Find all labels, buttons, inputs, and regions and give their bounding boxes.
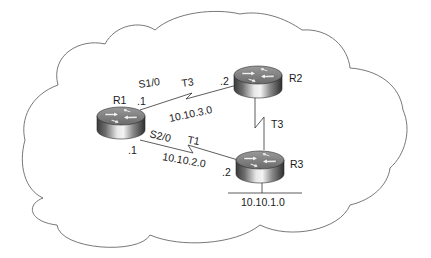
r1-r3-speed-label: T1 <box>187 133 201 147</box>
r2-host-label: .2 <box>220 75 229 87</box>
router-icon <box>234 66 282 98</box>
router-icon <box>97 107 145 139</box>
router-r2-label: R2 <box>289 72 303 84</box>
r1-r2-speed-label: T3 <box>181 75 195 89</box>
router-r1[interactable] <box>97 107 145 139</box>
r1-s1-host-label: .1 <box>137 95 146 107</box>
router-r2[interactable] <box>234 66 282 98</box>
r1-s1-interface-label: S1/0 <box>138 75 161 90</box>
r1-r3-network-label: 10.10.2.0 <box>162 150 207 169</box>
r1-s2-host-label: .1 <box>128 144 137 156</box>
router-r3[interactable] <box>236 151 284 183</box>
router-r3-label: R3 <box>290 158 304 170</box>
router-r1-label: R1 <box>113 94 127 106</box>
link-r2-r3 <box>255 96 264 150</box>
network-cloud <box>22 11 407 247</box>
r1-r2-network-label: 10.10.3.0 <box>168 103 213 124</box>
lan-network-label: 10.10.1.0 <box>241 196 285 208</box>
r1-s2-interface-label: S2/0 <box>149 127 173 144</box>
link-r1-r2 <box>140 85 237 110</box>
network-diagram: R1 R2 R3 S1/0 T3 .1 .2 10.10.3.0 S2/0 T1… <box>0 0 431 258</box>
router-icon <box>236 151 284 183</box>
r3-host-label: .2 <box>222 166 231 178</box>
r2-r3-speed-label: T3 <box>271 118 283 130</box>
